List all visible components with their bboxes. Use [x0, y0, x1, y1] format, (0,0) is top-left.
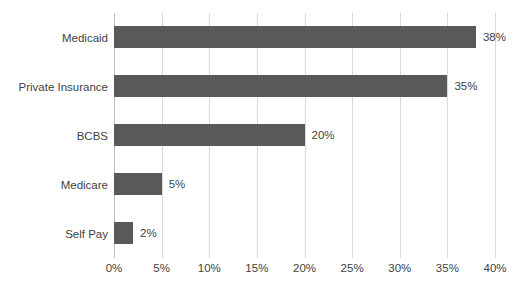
bar-value-label: 5%: [162, 173, 186, 195]
x-axis-tick-label: 40%: [483, 262, 506, 274]
bar: [114, 75, 447, 97]
x-axis-tick-label: 35%: [436, 262, 459, 274]
y-axis-label-row: Self Pay: [0, 209, 108, 258]
gridline: [495, 13, 496, 258]
y-axis-label-row: Medicare: [0, 160, 108, 209]
bar: [114, 26, 476, 48]
y-axis-label-row: BCBS: [0, 111, 108, 160]
bar-value-label: 20%: [305, 124, 335, 146]
bar-row: 2%: [114, 209, 495, 258]
y-axis-label: Private Insurance: [19, 81, 109, 93]
bar-row: 35%: [114, 62, 495, 111]
bar: [114, 222, 133, 244]
y-axis-category-labels: Medicaid Private Insurance BCBS Medicare…: [0, 13, 108, 258]
y-axis-label-row: Private Insurance: [0, 62, 108, 111]
x-axis-tick-label: 0%: [106, 262, 123, 274]
y-axis-label: BCBS: [77, 130, 108, 142]
bar-value-label: 2%: [133, 222, 157, 244]
x-axis-tick-label: 20%: [293, 262, 316, 274]
y-axis-label: Medicaid: [62, 32, 108, 44]
x-axis-tick-labels: 0%5%10%15%20%25%30%35%40%: [114, 262, 495, 282]
bar-value-label: 35%: [447, 75, 477, 97]
plot-area: 38% 35% 20% 5% 2%: [114, 13, 495, 258]
bar-row: 5%: [114, 160, 495, 209]
x-axis-tick-label: 5%: [153, 262, 170, 274]
y-axis-label: Medicare: [61, 179, 108, 191]
y-axis-label-row: Medicaid: [0, 13, 108, 62]
x-axis-tick-label: 10%: [198, 262, 221, 274]
y-axis-label: Self Pay: [65, 228, 108, 240]
bar-row: 20%: [114, 111, 495, 160]
bar-value-label: 38%: [476, 26, 506, 48]
bar-row: 38%: [114, 13, 495, 62]
x-axis-tick-label: 25%: [341, 262, 364, 274]
x-axis-tick-label: 30%: [388, 262, 411, 274]
bar-chart: Medicaid Private Insurance BCBS Medicare…: [0, 0, 526, 301]
x-axis-tick-label: 15%: [245, 262, 268, 274]
bar: [114, 124, 305, 146]
bar: [114, 173, 162, 195]
